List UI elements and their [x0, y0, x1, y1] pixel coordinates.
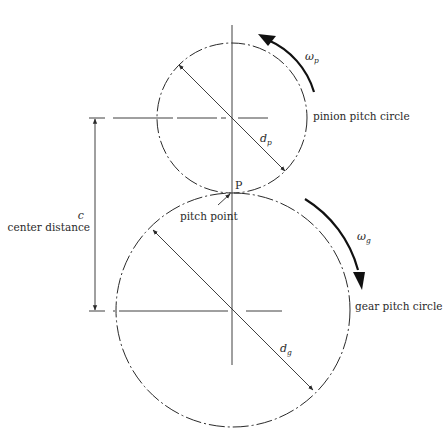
pinion-omega-label: ωp [305, 50, 319, 65]
gear-rotation-arc [305, 199, 358, 270]
pinion-rotation-arc [268, 40, 314, 92]
gear-rotation-arrowhead-icon [353, 272, 365, 290]
gear-pitch-circle-label: gear pitch circle [355, 300, 443, 312]
pinion-group: dp ωp pinion pitch circle [113, 25, 410, 193]
gear-group: dg ωg gear pitch circle [113, 193, 443, 427]
pinion-rotation-arrowhead-icon [258, 34, 276, 46]
gear-diameter-line [153, 230, 313, 390]
pitch-point-label: pitch point [180, 210, 238, 222]
center-distance-group: c center distance [8, 118, 105, 311]
pitch-point-group: P pitch point [180, 179, 243, 222]
gear-diameter-label: dg [280, 342, 292, 357]
pinion-pitch-circle-label: pinion pitch circle [313, 110, 410, 122]
gear-pitch-diagram: dp ωp pinion pitch circle dg ωg gear pit… [0, 0, 445, 441]
pitch-point-leader [218, 194, 230, 205]
center-distance-label: center distance [8, 221, 90, 233]
pinion-diameter-label: dp [260, 132, 272, 147]
gear-omega-label: ωg [357, 230, 371, 245]
pitch-point-marker: P [235, 179, 243, 192]
